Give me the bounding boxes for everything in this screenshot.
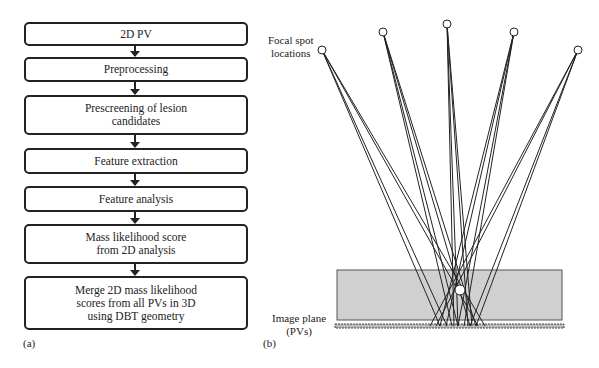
image-plane bbox=[335, 324, 564, 328]
image-plane-label: Image plane (PVs) bbox=[272, 312, 326, 338]
focal-spot-label: Focal spot locations bbox=[268, 34, 314, 60]
lesion bbox=[455, 285, 465, 295]
panel-b-label: (b) bbox=[263, 337, 276, 349]
focal-spots bbox=[318, 20, 582, 54]
